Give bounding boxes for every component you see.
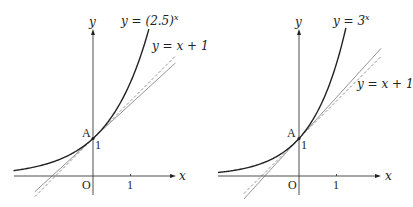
- right-x-axis-arrow-icon: [375, 174, 381, 178]
- right-tangent-line: [244, 48, 381, 199]
- right-line-label: y = x + 1: [357, 78, 413, 90]
- plots-canvas: [0, 0, 413, 207]
- left-curve-label: y = (2.5)x: [121, 14, 178, 27]
- left-y-tick-1-label: 1: [95, 139, 101, 151]
- left-x-axis-label: x: [179, 170, 186, 182]
- left-point-a-label: A: [82, 127, 91, 139]
- right-y-tick-1-label: 1: [301, 139, 307, 151]
- right-curve-label-exponent: x: [365, 13, 370, 22]
- left-tangent-line: [35, 63, 176, 192]
- left-curve-label-exponent: x: [174, 13, 179, 22]
- figure: y = (2.5)x y = x + 1 y x O 1 1 A y = 3x …: [0, 0, 413, 207]
- left-y-axis-arrow-icon: [91, 29, 95, 35]
- left-line-label: y = x + 1: [152, 40, 209, 52]
- left-origin-label: O: [82, 179, 91, 191]
- left-y-axis-label: y: [89, 16, 96, 28]
- right-curve-label: y = 3x: [333, 14, 370, 27]
- left-x-axis-arrow-icon: [170, 174, 176, 178]
- right-x-tick-1-label: 1: [333, 179, 339, 191]
- right-y-axis-arrow-icon: [297, 29, 301, 35]
- right-origin-label: O: [288, 179, 297, 191]
- right-y-axis-label: y: [295, 16, 302, 28]
- left-x-tick-1-label: 1: [127, 179, 133, 191]
- right-exponential-curve: [218, 28, 346, 173]
- right-point-a-label: A: [287, 127, 296, 139]
- right-x-axis-label: x: [385, 170, 392, 182]
- right-curve-label-text: y = 3: [333, 14, 365, 28]
- left-curve-label-text: y = (2.5): [121, 14, 174, 28]
